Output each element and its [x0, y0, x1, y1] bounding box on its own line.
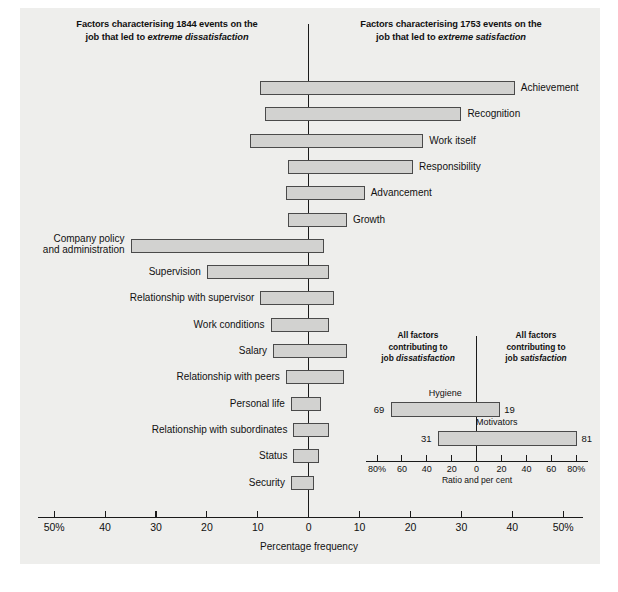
inset-bar: [391, 402, 501, 417]
inset-heading-satisfaction: All factors contributing to job satisfac…: [484, 330, 588, 365]
factor-bar: [293, 449, 318, 463]
factor-bar: [291, 397, 322, 411]
inset-x-axis-tick: [476, 455, 477, 461]
x-axis-tick: [54, 511, 55, 517]
inset-x-axis-tick: [426, 455, 427, 461]
x-axis-tick-label: 20: [187, 521, 227, 533]
inset-x-axis-tick: [526, 455, 527, 461]
factor-bar-label-line1: Relationship with subordinates: [152, 424, 288, 435]
inset-heading-right-line2: contributing to: [506, 342, 565, 352]
factor-bar-label-line1: Work conditions: [194, 319, 265, 330]
factor-bar: [288, 160, 413, 174]
factor-bar-label-line1: Work itself: [429, 135, 476, 146]
factor-bar-label: Salary: [239, 344, 267, 358]
factor-bar-label: Relationship with supervisor: [130, 291, 255, 305]
factor-bar: [131, 239, 324, 253]
x-axis-tick-label: 10: [340, 521, 380, 533]
factor-bar-label-line1: Salary: [239, 345, 267, 356]
factor-bar-label: Growth: [353, 213, 385, 227]
factor-bar: [250, 134, 423, 148]
inset-heading-left-line2: contributing to: [388, 342, 447, 352]
inset-bar-value-right: 81: [581, 431, 592, 446]
factor-bar: [273, 344, 347, 358]
factor-bar: [286, 370, 345, 384]
x-axis-tick: [105, 511, 106, 517]
inset-heading-right-emphasis: satisfaction: [520, 353, 567, 363]
factor-bar-label-line1: Security: [249, 477, 285, 488]
inset-heading-dissatisfaction: All factors contributing to job dissatis…: [366, 330, 470, 365]
factor-bar-label-line1: Responsibility: [419, 161, 481, 172]
factor-bar-label: Work conditions: [194, 318, 265, 332]
factor-bar-label: Responsibility: [419, 160, 481, 174]
factor-bar-label-line2: and administration: [43, 244, 125, 256]
inset-heading-left-line1: All factors: [398, 330, 439, 340]
x-axis-tick: [461, 511, 462, 517]
inset-heading-left-line3a: job: [381, 353, 396, 363]
inset-x-axis-tick: [451, 455, 452, 461]
heading-dissatisfaction-line2a: job that led to: [86, 32, 148, 42]
factor-bar-label-line1: Advancement: [371, 187, 432, 198]
factor-bar-label-line1: Recognition: [467, 108, 520, 119]
factor-bar-label-line1: Company policy: [53, 233, 124, 244]
x-axis-tick-label: 40: [492, 521, 532, 533]
factor-bar: [286, 186, 365, 200]
inset-bar-value-left: 69: [374, 402, 385, 417]
factor-bar: [260, 291, 334, 305]
x-axis-tick: [257, 511, 258, 517]
inset-bar-value-left: 31: [421, 431, 432, 446]
heading-satisfaction-line1: Factors characterising 1753 events on th…: [360, 19, 541, 29]
factor-bar-label-line1: Achievement: [521, 82, 579, 93]
heading-dissatisfaction: Factors characterising 1844 events on th…: [36, 18, 298, 44]
x-axis-tick: [206, 511, 207, 517]
factor-bar: [271, 318, 330, 332]
inset-x-axis-title: Ratio and per cent: [366, 475, 588, 485]
inset-heading-left-emphasis: dissatisfaction: [396, 353, 455, 363]
factor-bar: [207, 265, 329, 279]
inset-bar-value-right: 19: [504, 402, 515, 417]
heading-satisfaction-line2a: job that led to: [376, 32, 438, 42]
factor-bar-label: Company policyand administration: [43, 233, 125, 256]
factor-bar-label-line1: Personal life: [230, 398, 285, 409]
inset-heading-right-line1: All factors: [516, 330, 557, 340]
heading-satisfaction: Factors characterising 1753 events on th…: [320, 18, 582, 44]
x-axis-tick: [512, 511, 513, 517]
x-axis-tick-label: 30: [441, 521, 481, 533]
x-axis-tick: [563, 511, 564, 517]
heading-satisfaction-emphasis: extreme satisfaction: [438, 32, 526, 42]
x-axis-tick-label: 50%: [34, 521, 74, 533]
x-axis-tick-label: 40: [85, 521, 125, 533]
factor-bar-label: Achievement: [521, 81, 579, 95]
factor-bar-label: Advancement: [371, 186, 432, 200]
factor-bar: [293, 423, 329, 437]
factor-bar: [291, 476, 314, 490]
inset-x-axis-tick: [377, 455, 378, 461]
inset-x-axis-tick: [401, 455, 402, 461]
factor-bar-label-line1: Relationship with peers: [176, 371, 279, 382]
inset-bar-name: Motivators: [476, 417, 518, 427]
x-axis-tick: [155, 511, 156, 517]
factor-bar-label: Work itself: [429, 134, 476, 148]
factor-bar-label: Status: [259, 449, 287, 463]
inset-x-axis-line: [366, 461, 588, 462]
x-axis-tick-label: 10: [238, 521, 278, 533]
factor-bar-label-line1: Relationship with supervisor: [130, 292, 255, 303]
inset-bar: [438, 431, 577, 446]
inset-bar-name: Hygiene: [429, 388, 462, 398]
factor-bar: [260, 81, 515, 95]
inset-x-axis-tick-label: 80%: [561, 464, 591, 474]
inset-x-axis-tick: [551, 455, 552, 461]
factor-bar-label-line1: Growth: [353, 214, 385, 225]
factor-bar-label: Recognition: [467, 107, 520, 121]
inset-ratio-chart: All factors contributing to job dissatis…: [366, 330, 588, 488]
x-axis-tick: [308, 511, 309, 517]
x-axis-tick: [359, 511, 360, 517]
x-axis-tick-label: 30: [136, 521, 176, 533]
factor-bar-label: Security: [249, 476, 285, 490]
factor-bar-label: Personal life: [230, 397, 285, 411]
x-axis-tick-label: 0: [289, 521, 329, 533]
x-axis-tick-label: 20: [391, 521, 431, 533]
heading-dissatisfaction-line1: Factors characterising 1844 events on th…: [76, 19, 257, 29]
factor-bar-label: Relationship with subordinates: [152, 423, 288, 437]
inset-x-axis-tick: [576, 455, 577, 461]
heading-dissatisfaction-emphasis: extreme dissatisfaction: [147, 32, 248, 42]
